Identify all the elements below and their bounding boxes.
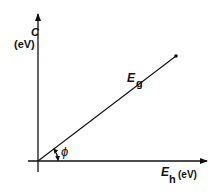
x-axis-subscript: h	[169, 173, 176, 185]
angle-arc	[54, 149, 58, 161]
eg-label-symbol: E	[127, 71, 136, 85]
y-axis-unit: (eV)	[14, 38, 35, 50]
angle-label: ϕ	[61, 144, 68, 159]
eg-label-subscript: g	[136, 77, 143, 89]
eg-line-endpoint	[174, 54, 178, 58]
angle-arc-lower	[56, 153, 58, 160]
y-axis-symbol: C	[31, 26, 40, 38]
x-axis-unit: (eV)	[178, 169, 197, 180]
diagram-canvas: C (eV) E g ϕ E h (eV)	[0, 0, 220, 194]
eg-line	[38, 56, 176, 161]
